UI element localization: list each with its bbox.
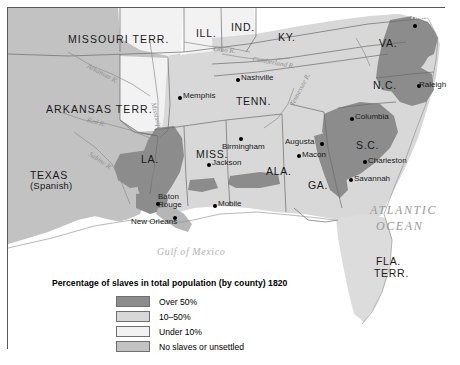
city-label-richmond: Richmond <box>411 13 447 21</box>
city-dot-birmingham <box>239 137 243 141</box>
state-label-n-c: N.C. <box>373 80 397 91</box>
city-dot-memphis <box>178 96 182 100</box>
baton-rouge-line2: Rouge <box>158 201 182 209</box>
state-label-ill: ILL. <box>196 28 216 39</box>
legend-swatch-2 <box>116 326 150 337</box>
water-label-gulf-of-mexico: Gulf of Mexico <box>157 247 225 258</box>
state-label-texas: TEXAS(Spanish) <box>30 170 72 191</box>
legend-swatch-3 <box>116 341 150 352</box>
legend-label-1: 10–50% <box>159 312 191 322</box>
state-label-la: LA. <box>141 154 159 165</box>
state-label-s-c: S.C. <box>356 140 379 151</box>
legend-label-2: Under 10% <box>159 327 202 337</box>
city-label-birmingham: Birmingham <box>222 143 265 151</box>
city-label-mobile: Mobile <box>218 200 242 208</box>
legend-swatch-1 <box>116 311 150 322</box>
city-label-baton-rouge: BatonRouge <box>158 193 182 210</box>
water-label-ocean: OCEAN <box>376 220 423 233</box>
city-label-raleigh: Raleigh <box>419 81 446 89</box>
state-label-tenn: TENN. <box>236 96 271 107</box>
water-label-atlantic: ATLANTIC <box>370 204 437 217</box>
city-label-new-orleans: New Orleans <box>131 218 177 226</box>
city-label-augusta: Augusta <box>285 138 314 146</box>
texas-line2: (Spanish) <box>30 181 72 191</box>
state-label-terr: TERR. <box>374 268 409 279</box>
city-dot-columbia <box>350 117 354 121</box>
legend-swatch-0 <box>116 296 150 307</box>
map-legend: Percentage of slaves in total population… <box>40 278 340 355</box>
state-label-ala: ALA. <box>266 166 292 177</box>
city-label-macon: Macon <box>302 151 326 159</box>
city-dot-savannah <box>349 178 353 182</box>
city-dot-nashville <box>236 78 240 82</box>
legend-item-0: Over 50% <box>40 295 340 308</box>
legend-item-3: No slaves or unsettled <box>40 340 340 353</box>
state-label-va: VA. <box>379 38 397 49</box>
legend-title: Percentage of slaves in total population… <box>52 278 340 288</box>
state-label-fla: FLA. <box>376 256 401 267</box>
city-label-savannah: Savannah <box>354 175 390 183</box>
city-dot-mobile <box>213 204 217 208</box>
map-frame: MISSOURI TERR.ARKANSAS TERR.ILL.IND.KY.V… <box>7 7 445 349</box>
state-label-arkansas-terr: ARKANSAS TERR. <box>46 104 153 115</box>
legend-label-0: Over 50% <box>159 297 197 307</box>
legend-item-2: Under 10% <box>40 325 340 338</box>
state-label-ky: KY. <box>278 32 296 43</box>
city-label-columbia: Columbia <box>355 113 389 121</box>
legend-label-3: No slaves or unsettled <box>159 342 244 352</box>
city-dot-richmond <box>413 24 417 28</box>
city-label-nashville: Nashville <box>241 74 273 82</box>
map-figure: MISSOURI TERR.ARKANSAS TERR.ILL.IND.KY.V… <box>0 0 460 365</box>
city-label-charleston: Charleston <box>368 157 407 165</box>
legend-rows: Over 50%10–50%Under 10%No slaves or unse… <box>40 295 340 353</box>
city-label-memphis: Memphis <box>183 92 215 100</box>
state-label-missouri-terr: MISSOURI TERR. <box>68 34 170 45</box>
legend-item-1: 10–50% <box>40 310 340 323</box>
city-label-jackson: Jackson <box>212 159 241 167</box>
city-dot-charleston <box>363 160 367 164</box>
state-label-ind: IND. <box>231 22 255 33</box>
city-dot-macon <box>297 154 301 158</box>
city-dot-augusta <box>320 142 324 146</box>
city-dot-jackson <box>207 163 211 167</box>
state-label-ga: GA. <box>308 180 328 191</box>
